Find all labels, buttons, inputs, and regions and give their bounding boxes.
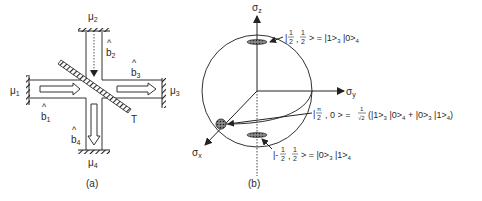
arrow-b1-hollow — [40, 83, 80, 95]
pointer-equator-state — [228, 113, 312, 124]
svg-text:b2: b2 — [106, 47, 116, 59]
state-marker-equator — [216, 119, 226, 129]
svg-text:, 0 > =: , 0 > = — [325, 110, 351, 120]
state-label-bottom: |- 1 2 , 1 2 > = |0>3 |1>4 — [273, 146, 352, 162]
svg-text:2: 2 — [289, 38, 293, 45]
svg-text:2: 2 — [281, 155, 285, 162]
svg-text:(|1>3 |0>4 + |0>3 |1>4): (|1>3 |0>4 + |0>3 |1>4) — [368, 110, 453, 121]
label-beam-splitter-T: T — [131, 114, 137, 125]
svg-text:2: 2 — [293, 155, 297, 162]
arrow-b3-hollow — [117, 83, 156, 95]
label-mu1: μ1 — [10, 85, 20, 97]
svg-text:1: 1 — [360, 106, 364, 112]
label-b3: ^ b3 — [131, 58, 141, 79]
svg-text:1: 1 — [281, 146, 285, 153]
pointer-top-state — [270, 37, 283, 42]
svg-text:2: 2 — [317, 114, 321, 121]
panel-a-interferometer: μ2 μ1 μ3 μ4 ^ b2 ^ b3 ^ b1 ^ b4 T (a) — [10, 11, 180, 189]
svg-text:√2: √2 — [358, 115, 365, 121]
label-sigma-x: σx — [192, 147, 202, 159]
mirror-mu3 — [162, 78, 166, 108]
pointer-bottom-state — [262, 139, 272, 149]
label-b1: ^ b1 — [41, 102, 51, 123]
mirror-mu2 — [78, 28, 110, 32]
state-marker-top — [247, 40, 267, 45]
panel-b-bloch-sphere: σz σy σx | 1 2 , 1 2 > = |1>3 |0>4 | π 2… — [192, 2, 453, 189]
label-mu2: μ2 — [88, 11, 98, 23]
mirror-mu4 — [78, 150, 110, 154]
arrow-b2-dotted — [90, 34, 98, 77]
label-b4: ^ b4 — [71, 125, 81, 146]
state-label-equator: | π 2 , 0 > = 1 √2 (|1>3 |0>4 + |0>3 |1>… — [313, 106, 453, 121]
svg-text:b1: b1 — [41, 111, 51, 123]
label-b2: ^ b2 — [106, 38, 116, 59]
svg-text:1: 1 — [301, 29, 305, 36]
label-mu3: μ3 — [170, 85, 180, 97]
svg-text:,: , — [288, 151, 291, 161]
svg-text:b4: b4 — [71, 134, 81, 146]
label-sigma-z: σz — [252, 2, 262, 14]
svg-text:> = |1>3 |0>4: > = |1>3 |0>4 — [309, 33, 360, 44]
svg-text:,: , — [296, 34, 299, 44]
state-marker-bottom — [247, 133, 267, 138]
state-label-top: | 1 2 , 1 2 > = |1>3 |0>4 — [285, 29, 360, 45]
label-mu4: μ4 — [88, 157, 98, 169]
mirror-mu1 — [26, 75, 30, 105]
svg-text:π: π — [317, 106, 321, 112]
svg-text:|: | — [285, 33, 287, 43]
svg-text:|: | — [313, 109, 315, 119]
svg-text:2: 2 — [301, 38, 305, 45]
svg-text:|-: |- — [273, 150, 278, 160]
caption-a: (a) — [86, 178, 98, 189]
caption-b: (b) — [248, 178, 260, 189]
svg-text:1: 1 — [289, 29, 293, 36]
label-sigma-y: σy — [346, 86, 356, 99]
svg-text:> = |0>3 |1>4: > = |0>3 |1>4 — [301, 150, 352, 161]
figure-canvas: μ2 μ1 μ3 μ4 ^ b2 ^ b3 ^ b1 ^ b4 T (a) — [0, 0, 482, 201]
svg-text:1: 1 — [293, 146, 297, 153]
svg-text:b3: b3 — [131, 67, 141, 79]
arrow-b4-hollow — [88, 104, 100, 145]
